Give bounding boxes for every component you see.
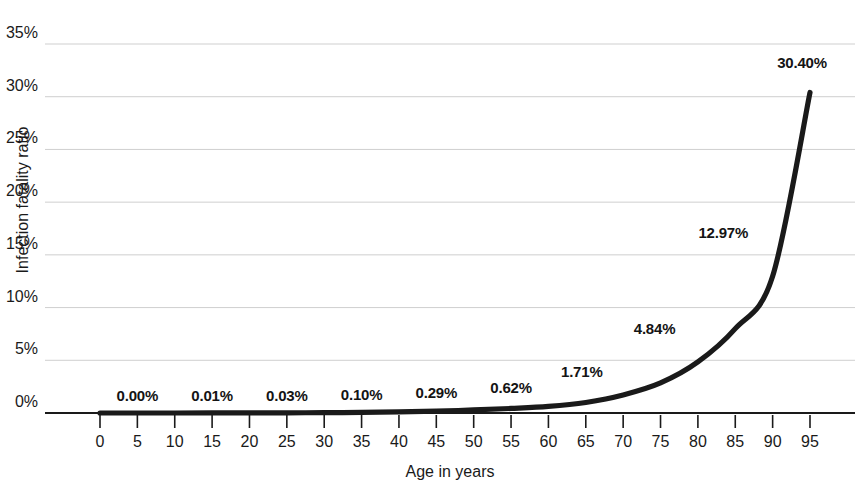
x-axis-tick-label: 25	[278, 433, 296, 451]
data-point-label: 0.29%	[416, 384, 458, 401]
x-axis-tick-label: 45	[427, 433, 445, 451]
x-axis-tick-label: 10	[166, 433, 184, 451]
chart-container: 35%30%25%20%15%10%5%0% 05101520253035404…	[0, 0, 861, 504]
x-axis-tick-label: 60	[540, 433, 558, 451]
data-point-label: 30.40%	[777, 54, 827, 71]
data-point-label: 0.00%	[117, 387, 159, 404]
x-axis-tick-label: 70	[614, 433, 632, 451]
chart-canvas	[0, 0, 861, 504]
data-point-label: 0.10%	[341, 386, 383, 403]
y-axis-title: Infection fatality ratio	[14, 0, 36, 410]
x-axis-tick-label: 95	[801, 433, 819, 451]
data-point-label: 0.03%	[266, 387, 308, 404]
x-axis-tick-label: 75	[652, 433, 670, 451]
data-point-label: 1.71%	[561, 363, 603, 380]
x-axis-tick-label: 5	[133, 433, 142, 451]
x-axis-title: Age in years	[45, 463, 855, 481]
x-axis-tick-marks	[100, 415, 810, 428]
data-point-label: 0.62%	[490, 379, 532, 396]
x-axis-tick-label: 80	[689, 433, 707, 451]
x-axis-tick-label: 55	[502, 433, 520, 451]
x-axis-tick-label: 15	[203, 433, 221, 451]
x-axis-tick-label: 20	[241, 433, 259, 451]
gridlines	[45, 44, 855, 360]
x-axis-tick-label: 40	[390, 433, 408, 451]
data-point-label: 12.97%	[698, 224, 748, 241]
x-axis-tick-label: 0	[96, 433, 105, 451]
ifr-curve	[100, 93, 810, 414]
x-axis-tick-label: 65	[577, 433, 595, 451]
x-axis-tick-label: 85	[726, 433, 744, 451]
x-axis-tick-label: 50	[465, 433, 483, 451]
x-axis-tick-label: 90	[764, 433, 782, 451]
data-point-label: 4.84%	[634, 320, 676, 337]
x-axis-tick-label: 35	[353, 433, 371, 451]
data-point-label: 0.01%	[191, 387, 233, 404]
x-axis-tick-label: 30	[315, 433, 333, 451]
